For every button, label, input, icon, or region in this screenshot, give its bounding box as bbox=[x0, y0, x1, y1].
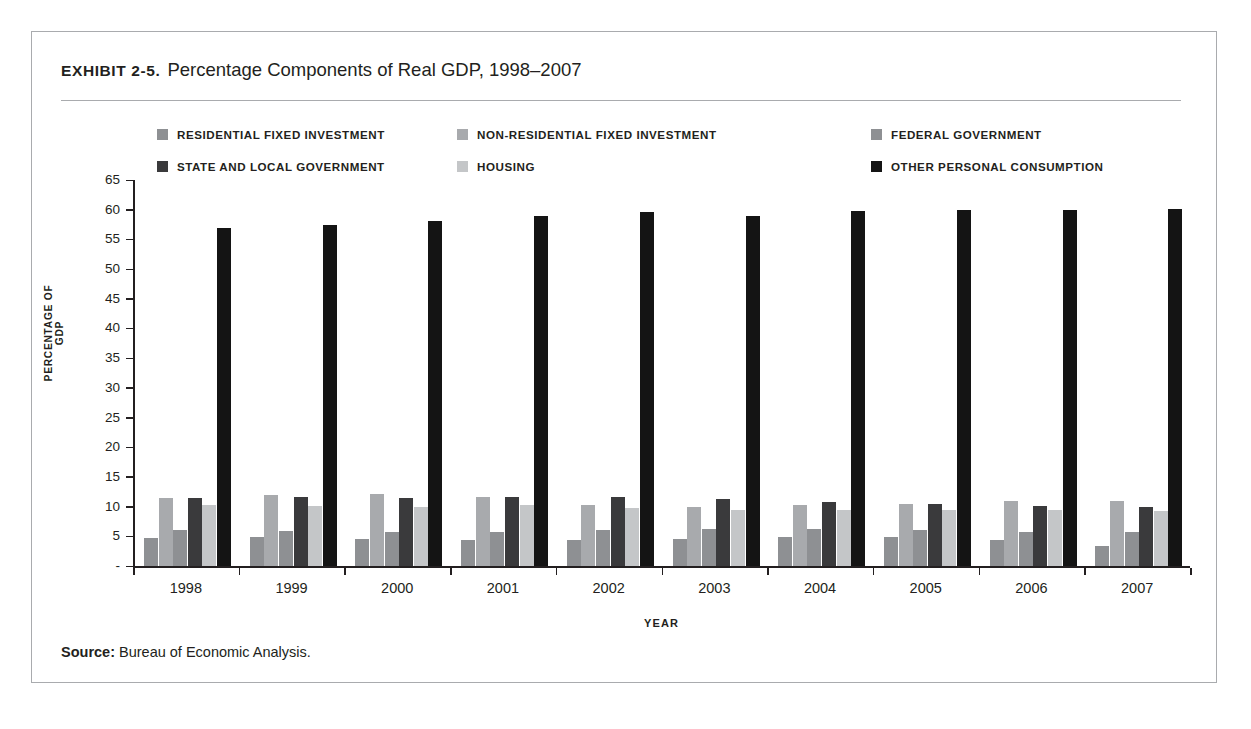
bar bbox=[673, 539, 687, 566]
bar bbox=[731, 510, 745, 566]
bar bbox=[928, 504, 942, 566]
y-axis-line bbox=[133, 180, 135, 568]
y-axis-tick-label: 55 bbox=[74, 232, 120, 246]
x-axis-tick-mark bbox=[344, 568, 346, 575]
y-axis-tick-label: - bbox=[74, 559, 120, 573]
bar bbox=[461, 540, 475, 566]
x-axis-title: YEAR bbox=[133, 617, 1190, 629]
bar bbox=[687, 507, 701, 566]
bar bbox=[1033, 506, 1047, 566]
bar bbox=[640, 212, 654, 566]
bar bbox=[837, 510, 851, 566]
x-axis-tick-label: 2004 bbox=[775, 580, 865, 596]
bar bbox=[746, 216, 760, 566]
bar bbox=[611, 497, 625, 566]
y-axis-tick-mark bbox=[126, 506, 133, 508]
bar bbox=[217, 228, 231, 566]
y-axis-tick-labels: -5101520253035404550556065 bbox=[70, 32, 120, 684]
source-note: Source:Bureau of Economic Analysis. bbox=[61, 644, 311, 660]
bar bbox=[490, 532, 504, 566]
x-axis-tick-mark bbox=[767, 568, 769, 575]
bar bbox=[793, 505, 807, 566]
y-axis-tick-mark bbox=[126, 417, 133, 419]
bar bbox=[581, 505, 595, 566]
y-axis-tick-mark bbox=[126, 180, 133, 182]
bar bbox=[716, 499, 730, 566]
y-axis-tick-mark bbox=[126, 476, 133, 478]
bar bbox=[567, 540, 581, 566]
bar bbox=[913, 530, 927, 566]
x-axis-tick-mark bbox=[239, 568, 241, 575]
y-axis-tick-mark bbox=[126, 269, 133, 271]
x-axis-tick-label: 1998 bbox=[141, 580, 231, 596]
bar bbox=[414, 507, 428, 566]
bar bbox=[173, 530, 187, 566]
bar bbox=[476, 497, 490, 566]
y-axis-tick-mark bbox=[126, 536, 133, 538]
x-axis-tick-label: 2003 bbox=[669, 580, 759, 596]
bar bbox=[1154, 511, 1168, 566]
bar bbox=[264, 495, 278, 566]
y-axis-tick-label: 40 bbox=[74, 321, 120, 335]
bar bbox=[1125, 532, 1139, 566]
y-axis-tick-label: 60 bbox=[74, 203, 120, 217]
bar bbox=[957, 210, 971, 566]
bar bbox=[1019, 532, 1033, 566]
bar bbox=[323, 225, 337, 566]
bar bbox=[308, 506, 322, 566]
bar bbox=[778, 537, 792, 566]
y-axis-tick-label: 50 bbox=[74, 262, 120, 276]
bar bbox=[1110, 501, 1124, 566]
y-axis-tick-label: 65 bbox=[74, 173, 120, 187]
x-axis-tick-mark bbox=[979, 568, 981, 575]
bar bbox=[370, 494, 384, 566]
bar bbox=[355, 539, 369, 566]
bar bbox=[1048, 510, 1062, 566]
x-axis-tick-mark bbox=[1084, 568, 1086, 575]
y-axis-tick-label: 20 bbox=[74, 440, 120, 454]
bar bbox=[990, 540, 1004, 566]
bar bbox=[1139, 507, 1153, 566]
exhibit-figure-frame: EXHIBIT 2-5.Percentage Components of Rea… bbox=[31, 31, 1217, 683]
y-axis-tick-mark bbox=[126, 447, 133, 449]
bar bbox=[596, 530, 610, 566]
bar bbox=[520, 505, 534, 566]
x-axis-tick-mark bbox=[662, 568, 664, 575]
x-axis-tick-label: 2000 bbox=[352, 580, 442, 596]
bar bbox=[385, 532, 399, 566]
x-axis-tick-label: 2005 bbox=[881, 580, 971, 596]
bar bbox=[625, 508, 639, 566]
x-axis-tick-label: 2006 bbox=[986, 580, 1076, 596]
bar bbox=[188, 498, 202, 566]
y-axis-tick-label: 45 bbox=[74, 292, 120, 306]
bar bbox=[851, 211, 865, 566]
bar bbox=[428, 221, 442, 566]
bar bbox=[534, 216, 548, 566]
bar bbox=[250, 537, 264, 566]
y-axis-tick-label: 15 bbox=[74, 470, 120, 484]
bar bbox=[807, 529, 821, 566]
bar bbox=[399, 498, 413, 566]
x-axis-tick-label: 1999 bbox=[247, 580, 337, 596]
y-axis-tick-label: 30 bbox=[74, 381, 120, 395]
chart-plot-area: -5101520253035404550556065 PERCENTAGE OF… bbox=[32, 32, 1218, 684]
y-axis-tick-mark bbox=[126, 239, 133, 241]
source-text: Bureau of Economic Analysis. bbox=[119, 644, 311, 660]
x-axis-tick-mark bbox=[133, 568, 135, 575]
y-axis-tick-mark bbox=[126, 298, 133, 300]
bar bbox=[279, 531, 293, 566]
bar bbox=[1004, 501, 1018, 566]
y-axis-tick-label: 25 bbox=[74, 411, 120, 425]
bar bbox=[884, 537, 898, 566]
x-axis-tick-label: 2002 bbox=[564, 580, 654, 596]
bar bbox=[144, 538, 158, 566]
x-axis-tick-mark bbox=[873, 568, 875, 575]
x-axis-tick-label: 2001 bbox=[458, 580, 548, 596]
bar bbox=[1063, 210, 1077, 566]
x-axis-tick-label: 2007 bbox=[1092, 580, 1182, 596]
source-label: Source: bbox=[61, 644, 115, 660]
x-axis-tick-mark bbox=[450, 568, 452, 575]
y-axis-tick-label: 10 bbox=[74, 500, 120, 514]
y-axis-tick-mark bbox=[126, 566, 133, 568]
x-axis-tick-mark bbox=[1190, 568, 1192, 575]
